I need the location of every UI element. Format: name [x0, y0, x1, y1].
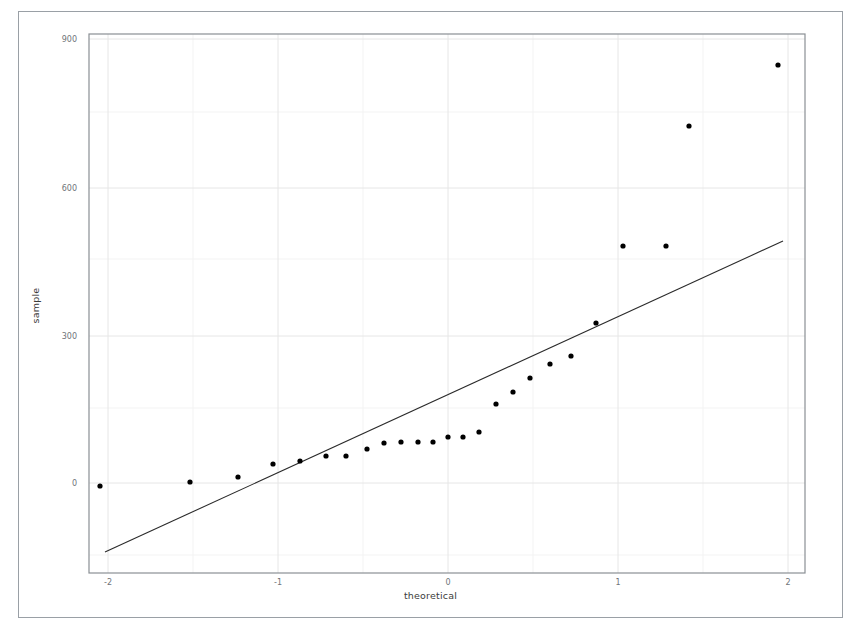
plot-window: 900 600 300 0 -2 -1 0 1 2 theoretical sa… [18, 11, 843, 618]
data-point [270, 461, 275, 466]
data-point [476, 429, 481, 434]
y-tick-label-300: 300 [37, 332, 77, 341]
panel-background [89, 34, 805, 573]
data-point [493, 401, 498, 406]
data-point [547, 361, 552, 366]
y-tick-label-600: 600 [37, 184, 77, 193]
data-point [430, 439, 435, 444]
qq-plot-canvas [19, 12, 844, 619]
data-point [323, 453, 328, 458]
x-tick-label-2: 2 [768, 578, 808, 587]
data-point [381, 440, 386, 445]
data-point [97, 483, 102, 488]
data-point [445, 434, 450, 439]
data-point [775, 62, 780, 67]
data-point [297, 458, 302, 463]
data-point [235, 474, 240, 479]
y-tick-label-900: 900 [37, 35, 77, 44]
data-point [343, 453, 348, 458]
data-point [398, 439, 403, 444]
y-tick-label-0: 0 [37, 479, 77, 488]
data-point [364, 446, 369, 451]
x-tick-label-neg2: -2 [88, 578, 128, 587]
x-axis-title: theoretical [19, 590, 842, 601]
data-point [620, 243, 625, 248]
data-point [568, 353, 573, 358]
data-point [686, 123, 691, 128]
data-point [510, 389, 515, 394]
data-point [460, 434, 465, 439]
data-point [415, 439, 420, 444]
x-tick-label-1: 1 [598, 578, 638, 587]
y-axis-title: sample [30, 276, 41, 336]
x-tick-label-neg1: -1 [258, 578, 298, 587]
data-point [527, 375, 532, 380]
data-point [663, 243, 668, 248]
data-point [187, 479, 192, 484]
x-tick-label-0: 0 [428, 578, 468, 587]
data-point [593, 320, 598, 325]
